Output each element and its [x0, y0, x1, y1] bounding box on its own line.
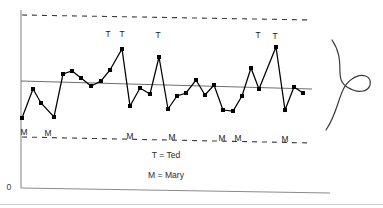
data-point-marker: [194, 78, 198, 82]
data-point-marker: [240, 94, 244, 98]
data-point-marker: [203, 93, 207, 97]
data-point-marker: [138, 86, 142, 90]
data-point-marker: [212, 83, 216, 87]
data-point-marker: [108, 68, 112, 72]
data-point-marker: [120, 47, 124, 51]
origin-label: 0: [7, 182, 12, 192]
data-point-marker: [128, 104, 132, 108]
legend-entry: M = Mary: [148, 170, 185, 180]
data-point-marker: [61, 72, 65, 76]
data-point-marker: [39, 101, 43, 105]
mary-label: M: [45, 128, 52, 138]
mary-label: M: [127, 131, 134, 141]
mary-label: M: [21, 127, 28, 137]
data-point-marker: [231, 109, 235, 113]
ted-label: T: [155, 30, 160, 40]
data-point-marker: [157, 55, 161, 59]
data-point-marker: [31, 87, 35, 91]
data-point-marker: [292, 85, 296, 89]
ted-label: T: [119, 29, 124, 39]
data-point-marker: [257, 87, 261, 91]
mary-label: M: [282, 134, 289, 144]
data-point-marker: [175, 94, 179, 98]
control-chart-svg: TTTTT MMMMMMM T = TedM = Mary 0: [0, 0, 383, 208]
control-chart-figure: TTTTT MMMMMMM T = TedM = Mary 0: [0, 0, 383, 208]
data-point-marker: [79, 76, 83, 80]
mary-label: M: [235, 133, 242, 143]
legend-entry: T = Ted: [152, 150, 181, 160]
mary-label: M: [169, 132, 176, 142]
data-point-marker: [70, 69, 74, 73]
ted-label: T: [105, 29, 110, 39]
data-point-marker: [89, 84, 93, 88]
chart-background: [0, 0, 383, 208]
data-point-marker: [274, 45, 278, 49]
data-point-marker: [166, 107, 170, 111]
data-point-marker: [249, 66, 253, 70]
mary-label: M: [219, 133, 226, 143]
data-point-marker: [221, 108, 225, 112]
data-point-marker: [52, 115, 56, 119]
ted-label: T: [255, 30, 260, 40]
data-point-marker: [283, 108, 287, 112]
ted-label: T: [272, 31, 277, 41]
data-point-marker: [184, 91, 188, 95]
data-point-marker: [20, 116, 24, 120]
data-point-marker: [99, 79, 103, 83]
data-point-marker: [301, 91, 305, 95]
data-point-marker: [148, 92, 152, 96]
